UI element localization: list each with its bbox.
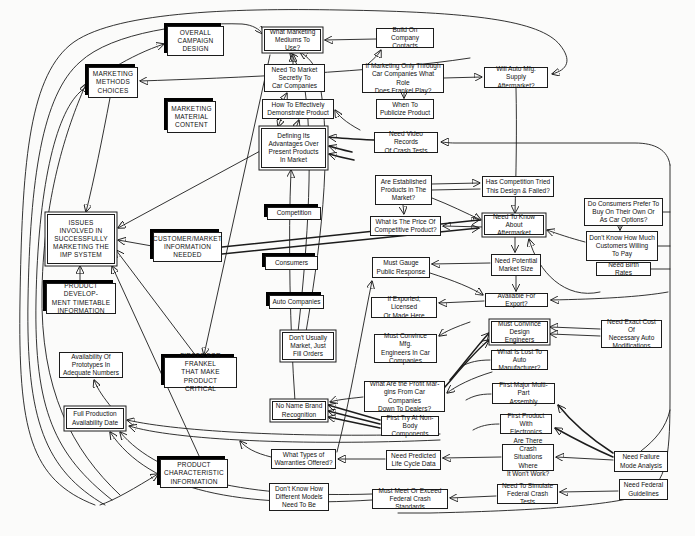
node-customer-market-information: CUSTOMER/MARKET INFORMATION NEEDED — [153, 232, 222, 262]
node-build-on-company-contacts: Build On Company Contacts — [376, 28, 434, 48]
node-product-characteristic: PRODUCT CHARACTERISTIC INFORMATION — [160, 459, 228, 488]
node-availability-of-prototypes: Availability Of Prototypes In Adequate N… — [59, 352, 123, 378]
node-dont-know-how-different: Don't Know How Different Models Need To … — [269, 483, 329, 511]
node-how-to-effectively-demonstrate: How To Effectively Demonstrate Product — [262, 99, 334, 119]
diagram-canvas: OVERALL CAMPAIGN DESIGN What Marketing M… — [0, 0, 695, 536]
node-first-major-multipart: First Major Multi-Part Assembly — [492, 383, 555, 404]
node-dont-know-how-much: Don't Know How Much Customers Willing To… — [586, 231, 658, 261]
node-need-failure-mode: Need Failure Mode Analysis — [614, 451, 668, 472]
node-will-auto-mfg-supply: Will Auto Mfg. Supply Aftermarket? — [484, 67, 548, 88]
node-need-to-market-secretly: Need To Market Secretly To Car Companies — [264, 64, 325, 92]
node-has-competition-tried: Has Competition Tried This Design & Fail… — [482, 176, 554, 197]
node-need-potential-market-size: Need Potential Market Size — [491, 254, 541, 276]
node-issues-involved: ISSUES INVOLVED IN SUCCESSFULLY MARKETIN… — [47, 214, 115, 264]
node-if-exported-licensed: If Exported, Licensed Or Made Here — [371, 297, 437, 318]
node-full-production-availability: Full Production Availability Date — [66, 408, 124, 429]
node-product-development-timetable: PRODUCT DEVELOP- MENT TIMETABLE INFORMAT… — [46, 283, 116, 314]
node-need-birth-rates: Need Birth Rates — [596, 262, 651, 276]
node-marketing-methods-choices: MARKETING METHODS CHOICES — [88, 67, 138, 98]
node-dont-usually-market: Don't Usually Market, Just Fill Orders — [282, 332, 334, 360]
node-must-meet-or-exceed: Must Meet Or Exceed Federal Crash Standa… — [372, 489, 448, 509]
node-need-to-know-aftermarket: Need To Know About Aftermarket — [484, 215, 544, 235]
node-available-for-export: Available For Export? — [485, 293, 548, 307]
node-firsts-for-frankel: FIRSTS FOR FRANKEL THAT MAKE PRODUCT CRI… — [164, 357, 237, 388]
node-must-convince-design: Must Convince Design Engineers — [491, 321, 548, 343]
node-first-product-electronics: First Product With Electronics — [500, 414, 552, 434]
node-defining-its-advantages: Defining Its Advantages Over Present Pro… — [261, 128, 326, 168]
node-what-marketing-mediums: What Marketing Mediums To Use? — [264, 29, 321, 51]
node-what-are-profit-margins: What Are the Profit Mar- gins From Car C… — [364, 381, 445, 412]
node-must-gauge-public-response: Must Gauge Public Response — [372, 257, 430, 278]
node-if-marketing-only-through: If Marketing Only Through Car Companies … — [362, 64, 444, 93]
node-need-predicted-life-cycle: Need Predicted Life Cycle Data — [386, 450, 441, 470]
node-are-there-crash: Are There Crash Situations Where It Won'… — [502, 444, 554, 471]
node-need-federal-guidelines: Need Federal Guidelines — [619, 479, 668, 500]
node-need-exact-cost: Need Exact Cost Of Necessary Auto Modifi… — [601, 320, 662, 348]
node-competition: Competition — [267, 207, 321, 220]
node-are-established-products: Are Established Products in The Market? — [375, 175, 432, 205]
node-need-video-records: Need Video Records Of Crash Tests — [374, 132, 438, 153]
node-must-convince-mfg: Must Convince Mfg. Engineers In Car Comp… — [374, 334, 437, 363]
node-overall-campaign-design: OVERALL CAMPAIGN DESIGN — [167, 26, 224, 56]
node-no-name-brand: No Name Brand Recognition — [272, 401, 326, 420]
node-what-is-lost: What Is Lost To Auto Manufacturer? — [491, 350, 548, 370]
node-what-is-the-price: What is The Price Of Competitive Product… — [370, 216, 441, 236]
node-consumers: Consumers — [265, 256, 318, 270]
node-first-try-nonbody: First Try At Non- Body Components — [381, 416, 439, 436]
node-when-to-publicize: When To Publicize Product — [376, 99, 434, 119]
node-do-consumers-prefer: Do Consumers Prefer To Buy On Their Own … — [584, 198, 663, 226]
node-what-types-warranties: What Types of Warranties Offered? — [271, 449, 336, 469]
node-need-to-simulate: Need To Simulate Federal Crash Tests — [497, 484, 558, 504]
node-marketing-material-content: MARKETING MATERIAL CONTENT — [167, 101, 216, 133]
node-auto-companies: Auto Companies — [269, 295, 324, 309]
